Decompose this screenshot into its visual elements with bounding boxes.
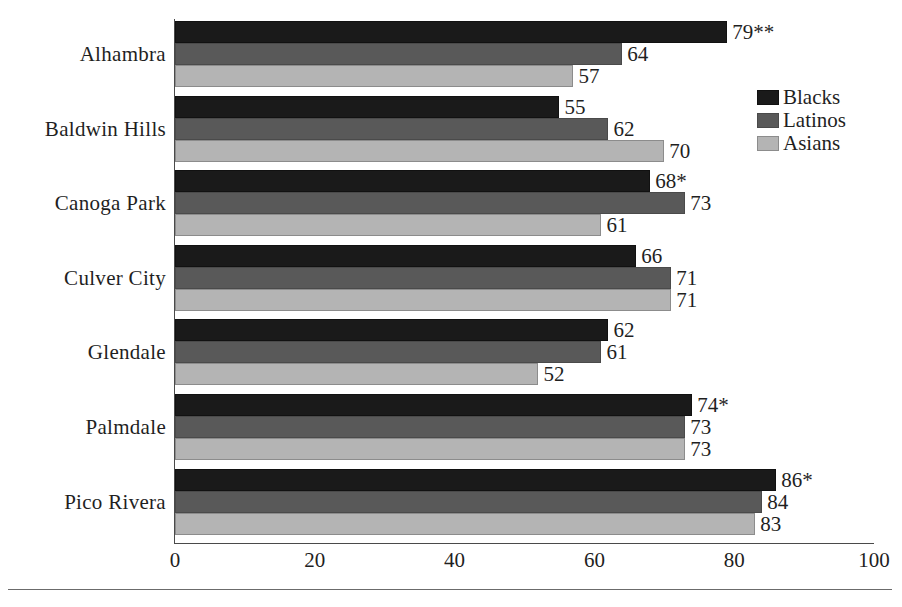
bar-value-label: 73 — [685, 416, 711, 438]
legend-item-latinos: Latinos — [757, 109, 897, 132]
bar-value-label: 73 — [685, 438, 711, 460]
legend-item-blacks: Blacks — [757, 86, 897, 109]
bar-value-label: 83 — [755, 513, 781, 535]
legend-item-asians: Asians — [757, 132, 897, 155]
bar-latinos-glendale — [175, 341, 601, 363]
bar-blacks-glendale — [175, 319, 608, 341]
category-label-canoga-park: Canoga Park — [0, 193, 166, 214]
bar-value-label: 68* — [650, 170, 687, 192]
bar-value-label: 62 — [608, 319, 634, 341]
bar-latinos-baldwin-hills — [175, 118, 608, 140]
category-label-baldwin-hills: Baldwin Hills — [0, 119, 166, 140]
x-axis-line — [174, 543, 874, 544]
bar-value-label: 61 — [601, 341, 627, 363]
bar-value-label: 52 — [538, 363, 564, 385]
bar-asians-palmdale — [175, 438, 685, 460]
bar-value-label: 57 — [573, 65, 599, 87]
bar-latinos-canoga-park — [175, 192, 685, 214]
legend-swatch-icon-blacks — [757, 90, 779, 105]
bar-value-label: 84 — [762, 491, 788, 513]
bar-blacks-palmdale — [175, 394, 692, 416]
bar-value-label: 64 — [622, 43, 648, 65]
bar-blacks-baldwin-hills — [175, 96, 559, 118]
bar-value-label: 66 — [636, 245, 662, 267]
legend-swatch-icon-asians — [757, 136, 779, 151]
bar-value-label: 73 — [685, 192, 711, 214]
legend-swatch-icon-latinos — [757, 113, 779, 128]
bar-latinos-palmdale — [175, 416, 685, 438]
x-tick-60: 60 — [564, 548, 624, 572]
bar-asians-canoga-park — [175, 214, 601, 236]
footer-divider — [8, 589, 892, 590]
bar-latinos-alhambra — [175, 43, 622, 65]
bar-value-label: 79** — [727, 21, 774, 43]
bar-asians-pico-rivera — [175, 513, 755, 535]
bar-value-label: 71 — [671, 267, 697, 289]
bar-value-label: 61 — [601, 214, 627, 236]
category-label-pico-rivera: Pico Rivera — [0, 492, 166, 513]
x-tick-40: 40 — [425, 548, 485, 572]
x-tick-100: 100 — [844, 548, 902, 572]
chart-legend: BlacksLatinosAsians — [757, 86, 897, 155]
bar-value-label: 62 — [608, 118, 634, 140]
bar-value-label: 55 — [559, 96, 585, 118]
bar-blacks-alhambra — [175, 21, 727, 43]
legend-label: Latinos — [783, 110, 846, 131]
bar-latinos-culver-city — [175, 267, 671, 289]
category-label-culver-city: Culver City — [0, 268, 166, 289]
legend-label: Asians — [783, 133, 840, 154]
bar-asians-baldwin-hills — [175, 140, 664, 162]
chart-page: AlhambraBaldwin HillsCanoga ParkCulver C… — [0, 0, 902, 607]
bar-blacks-canoga-park — [175, 170, 650, 192]
bar-value-label: 70 — [664, 140, 690, 162]
x-tick-20: 20 — [285, 548, 345, 572]
bar-asians-glendale — [175, 363, 538, 385]
bar-blacks-pico-rivera — [175, 469, 776, 491]
x-tick-80: 80 — [704, 548, 764, 572]
bar-blacks-culver-city — [175, 245, 636, 267]
bar-value-label: 71 — [671, 289, 697, 311]
category-label-palmdale: Palmdale — [0, 417, 166, 438]
grouped-bar-chart: AlhambraBaldwin HillsCanoga ParkCulver C… — [0, 0, 902, 560]
category-label-glendale: Glendale — [0, 342, 166, 363]
bar-value-label: 74* — [692, 394, 729, 416]
bar-asians-culver-city — [175, 289, 671, 311]
x-tick-0: 0 — [145, 548, 205, 572]
category-label-alhambra: Alhambra — [0, 44, 166, 65]
legend-label: Blacks — [783, 87, 840, 108]
bar-latinos-pico-rivera — [175, 491, 762, 513]
bar-value-label: 86* — [776, 469, 813, 491]
bar-asians-alhambra — [175, 65, 573, 87]
